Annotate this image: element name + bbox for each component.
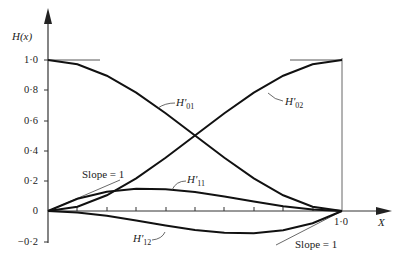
y-axis-label: H(x) (12, 30, 32, 42)
y-tick-0-6: 0·6 (8, 115, 38, 127)
x-axis-arrow-icon (376, 207, 392, 215)
curve-h02 (48, 60, 342, 211)
leader-h02 (268, 93, 283, 101)
y-tick-0-8: 0·8 (8, 84, 38, 96)
slope-annotation-top: Slope = 1 (82, 168, 124, 180)
leader-h12 (152, 232, 165, 240)
y-tick-0-4: 0·4 (8, 145, 38, 157)
label-h11: H'11 (187, 173, 205, 188)
label-h01: H'01 (176, 96, 194, 111)
y-axis-arrow-icon (44, 8, 52, 24)
label-h02: H'02 (285, 95, 303, 110)
y-tick-minus-0-2: −0·2 (8, 236, 38, 248)
leader-h01 (158, 103, 175, 108)
leader-h11 (172, 181, 186, 190)
y-tick-0-2: 0·2 (8, 175, 38, 187)
y-tick-0: 0 (8, 205, 38, 217)
x-tick-1-0: 1·0 (334, 216, 348, 228)
x-axis-label: X (378, 216, 385, 228)
x-ticks (77, 207, 313, 211)
slope-annotation-bottom: Slope = 1 (295, 238, 337, 250)
y-tick-1-0: 1·0 (8, 54, 38, 66)
curve-h12 (48, 211, 342, 233)
hermite-basis-chart: H(x) 1·0 0·8 0·6 0·4 0·2 0 −0·2 1·0 X Sl… (0, 0, 401, 263)
label-h12: H'12 (133, 232, 151, 247)
